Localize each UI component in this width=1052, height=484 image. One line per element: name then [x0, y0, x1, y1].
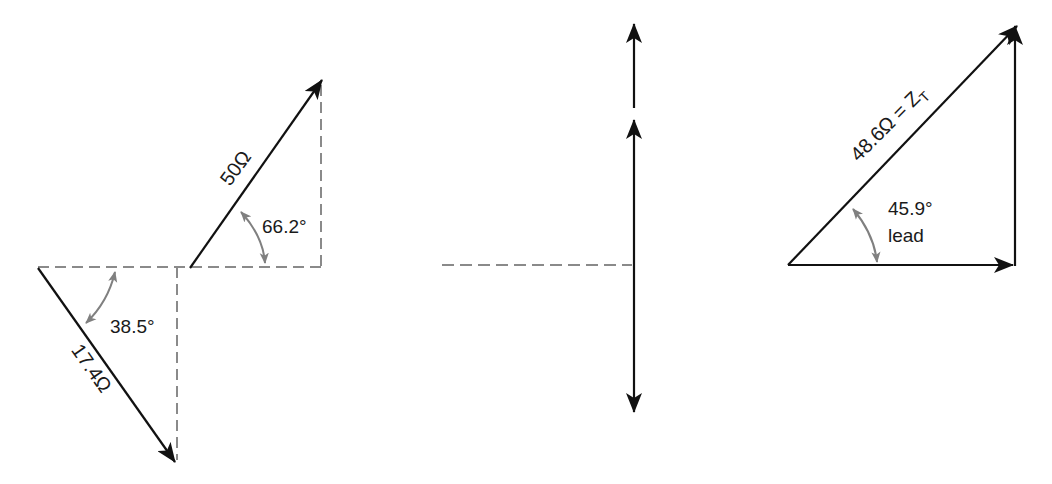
- middle-figure: [442, 24, 634, 412]
- angle-label-66: 66.2°: [262, 216, 307, 237]
- vector-50-ohm: [190, 80, 322, 268]
- angle-arc-45: [853, 209, 877, 262]
- total-impedance-label: 48.6Ω = ZT: [846, 81, 934, 169]
- angle-label-45: 45.9°: [888, 198, 933, 219]
- left-figure: 50Ω 17.4Ω 66.2° 38.5°: [38, 80, 322, 462]
- angle-label-38: 38.5°: [110, 316, 155, 337]
- angle-note-lead: lead: [888, 225, 924, 246]
- right-figure: 48.6Ω = ZT 45.9° lead: [788, 26, 1017, 266]
- phasor-diagram: 50Ω 17.4Ω 66.2° 38.5° 48.6Ω = ZT 45.9° l…: [0, 0, 1052, 484]
